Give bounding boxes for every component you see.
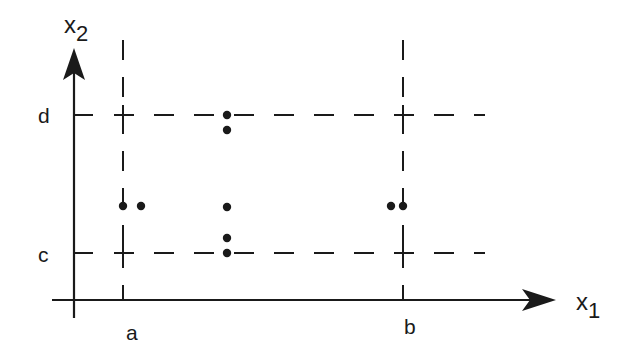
data-point xyxy=(223,111,231,119)
intersection-crosses xyxy=(114,105,413,266)
x-axis xyxy=(52,289,556,311)
data-point xyxy=(223,203,231,211)
y-axis-label: x2 xyxy=(64,11,88,46)
data-point xyxy=(223,126,231,134)
tick-label-b: b xyxy=(404,315,416,338)
data-points xyxy=(119,111,407,257)
x-axis-label: x1 xyxy=(576,288,600,323)
tick-label-d: d xyxy=(38,104,50,127)
data-point xyxy=(223,234,231,242)
tick-label-a: a xyxy=(126,321,138,344)
data-point xyxy=(119,202,127,210)
tick-label-c: c xyxy=(38,243,49,266)
rectangle-bounds-diagram: x2 x1 d c a b xyxy=(0,0,632,358)
y-axis xyxy=(63,48,85,318)
data-point xyxy=(137,202,145,210)
data-point xyxy=(399,202,407,210)
data-point xyxy=(387,202,395,210)
data-point xyxy=(223,249,231,257)
